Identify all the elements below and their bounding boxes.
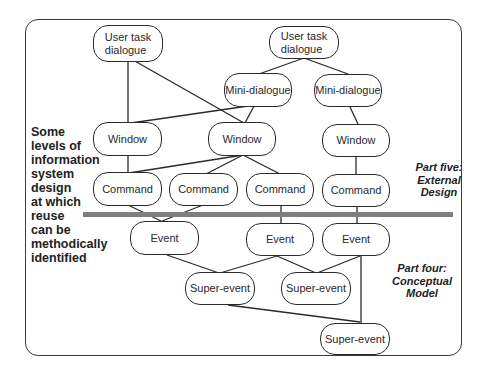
node-label: Command — [255, 183, 306, 196]
super-event-node: Super-event — [320, 323, 390, 355]
command-node: Command — [93, 172, 162, 206]
command-node: Command — [322, 174, 390, 207]
node-label: Window — [336, 134, 375, 147]
side-label-line: methodically — [31, 237, 101, 251]
user-task-dialogue-node: User task dialogue — [269, 26, 339, 59]
part-four-line: Part four: — [389, 262, 455, 275]
event-node: Event — [130, 221, 199, 255]
side-label-line: reuse — [31, 209, 101, 223]
node-label: Window — [108, 133, 147, 146]
super-event-node: Super-event — [185, 272, 255, 305]
side-label-line: system — [31, 167, 101, 181]
part-five-label: Part five: External Design — [408, 161, 470, 199]
node-label: Mini-dialogue — [225, 84, 290, 97]
side-label-line: at which — [31, 195, 101, 209]
part-five-line: Part five: — [408, 161, 470, 174]
node-label: Super-event — [286, 282, 346, 295]
reuse-boundary-bar — [83, 212, 453, 217]
part-four-line: Model — [389, 287, 455, 300]
mini-dialogue-node: Mini-dialogue — [224, 73, 292, 107]
node-label-line: User task — [105, 31, 151, 44]
node-label: Mini-dialogue — [315, 84, 380, 97]
window-node: Window — [322, 124, 390, 157]
side-label-line: levels of — [31, 139, 101, 153]
part-four-label: Part four: Conceptual Model — [389, 262, 455, 300]
mini-dialogue-node: Mini-dialogue — [314, 74, 382, 107]
side-label-line: Some — [31, 125, 101, 139]
node-label: Window — [222, 133, 261, 146]
node-label: Command — [102, 183, 153, 196]
side-label-line: design — [31, 181, 101, 195]
event-node: Event — [322, 223, 390, 256]
window-node: Window — [93, 122, 162, 156]
side-label-line: can be — [31, 223, 101, 237]
user-task-dialogue-node: User task dialogue — [93, 25, 163, 62]
side-label-line: identified — [31, 251, 101, 265]
super-event-node: Super-event — [281, 272, 351, 305]
node-label-line: dialogue — [281, 43, 327, 56]
side-label-line: information — [31, 153, 101, 167]
part-four-line: Conceptual — [389, 275, 455, 288]
node-label: Super-event — [190, 282, 250, 295]
node-label-line: User task — [281, 30, 327, 43]
node-label: Event — [150, 232, 178, 245]
node-label: Event — [266, 233, 294, 246]
command-node: Command — [169, 173, 238, 206]
node-label-line: dialogue — [105, 44, 151, 57]
window-node: Window — [208, 122, 276, 156]
node-label: Command — [331, 184, 382, 197]
node-label: Event — [342, 233, 370, 246]
event-node: Event — [246, 223, 314, 256]
node-label: Command — [178, 183, 229, 196]
part-five-line: Design — [408, 186, 470, 199]
side-label: Some levels of information system design… — [31, 125, 101, 265]
command-node: Command — [246, 173, 314, 206]
part-five-line: External — [408, 174, 470, 187]
node-label: Super-event — [325, 333, 385, 346]
